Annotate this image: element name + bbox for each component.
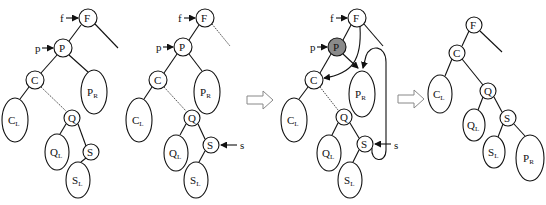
pointer-p-label: p [310,41,316,53]
pointer-s-label: s [394,139,398,151]
node-Q-label: Q [484,85,492,97]
edge-Q-QL [60,124,66,134]
edge-F-C [462,31,469,46]
node-C-label: C [453,47,460,59]
pointer-p-label: p [156,41,162,53]
edge-Q-S [494,97,502,112]
edge-S-SL [498,124,503,137]
edge-F-right-parent [212,24,230,46]
edge-Q-QL [332,123,338,135]
edge-C-Q [41,87,66,111]
transition-arrow-icon [398,90,424,108]
edge-S-SL [81,158,86,162]
edge-P-C [164,54,177,73]
edge-Q-S [198,124,205,139]
edge-C-CL [299,87,308,99]
edge-C-CL [144,87,152,99]
node-F-label: F [84,12,90,24]
pointer-p-label: p [35,42,41,54]
panel-stage-3: PR CL QL SL F P C Q S f p s [281,9,398,198]
edge-F-P [189,25,199,40]
edge-S-SL [199,151,205,162]
edge-C-CL [20,87,29,99]
edge-S-PR [514,124,525,136]
edge-C-Q [320,87,338,110]
edge-F-right-parent [95,24,118,48]
panel-stage-4: CL QL SL PR F C Q S [428,17,544,181]
edge-P-PR [189,54,202,71]
pointer-f-label: f [60,12,64,24]
edge-C-Q [164,87,186,111]
node-S-label: S [207,139,213,151]
node-S-label: S [87,146,93,158]
edge-Q-QL [180,124,186,135]
node-P-label: P [59,42,65,54]
edge-Q-S [78,124,86,146]
node-P-label: P [333,41,339,53]
edge-F-right-parent [364,24,383,46]
edge-F-right-parent [480,31,502,52]
pointer-f-label: f [330,12,334,24]
edge-F-P [343,25,351,40]
node-F-label: F [470,19,476,31]
edge-P-C [320,54,331,73]
edge-C-CL [445,59,452,76]
node-F-label: F [353,12,359,24]
edge-S-SL [353,150,359,162]
edge-Q-QL [478,97,483,110]
edge-Q-S [350,123,359,138]
pointer-s-label: s [240,139,244,151]
edge-F-P [69,25,81,41]
node-Q-label: Q [340,111,348,123]
panel-stage-2: PR CL QL SL F P C Q S f p s [126,9,244,198]
node-C-label: C [154,74,161,86]
bst-deletion-diagram: PR CL QL SL F P C Q S f p PR [0,0,546,205]
node-S-label: S [361,138,367,150]
node-C-label: C [310,74,317,86]
edge-P-PR [69,55,88,72]
node-Q-label: Q [188,112,196,124]
node-C-label: C [31,74,38,86]
node-Q-label: Q [68,112,76,124]
edge-P-C [41,55,57,73]
edge-C-Q [462,59,483,85]
node-F-label: F [201,12,207,24]
transition-arrow-icon [247,91,273,109]
pointer-f-label: f [178,12,182,24]
panel-stage-1: PR CL QL SL F P C Q S f p [2,9,118,198]
node-P-label: P [179,41,185,53]
node-S-label: S [504,112,510,124]
